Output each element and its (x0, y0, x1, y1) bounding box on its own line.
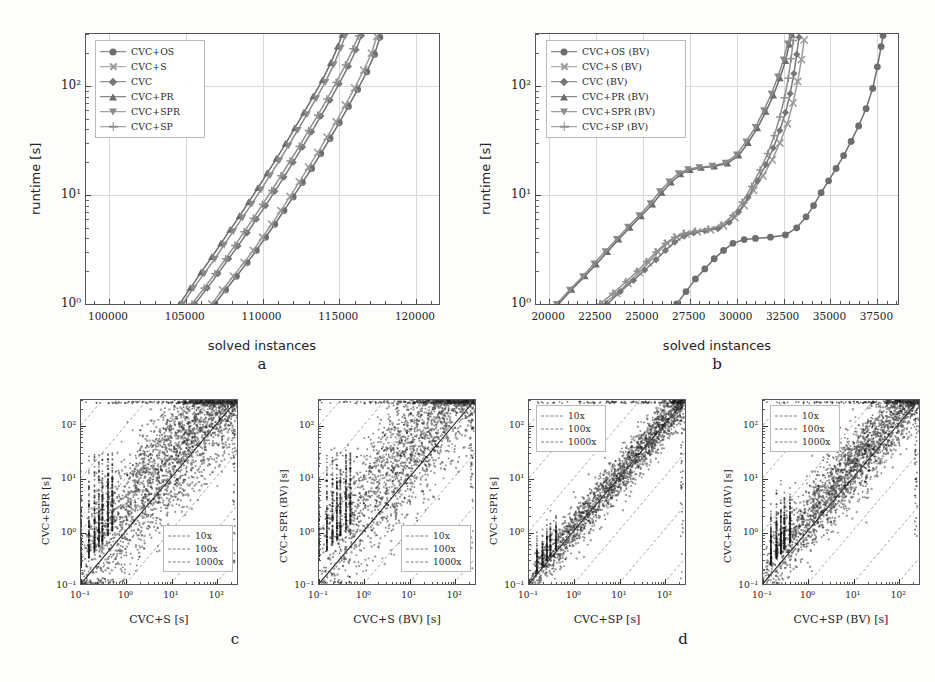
x-minor-tick (108, 582, 109, 584)
speedup-line-100x-mirror (619, 506, 685, 584)
speedup-legend-item-100x[interactable]: 100x (775, 422, 834, 435)
legend-item-cvc-os-bv-[interactable]: CVC+OS (BV) (551, 44, 680, 59)
series-marker (855, 123, 862, 130)
speedup-legend-item-100x[interactable]: 100x (541, 422, 600, 435)
legend-item-cvc-sp-bv-[interactable]: CVC+SP (BV) (551, 119, 680, 134)
legend-marker-sample (551, 76, 577, 88)
series-marker (781, 94, 789, 102)
legend-item-cvc[interactable]: CVC (100, 74, 199, 89)
x-minor-tick (727, 301, 728, 304)
y-minor-tick (529, 484, 531, 485)
y-minor-tick (763, 409, 765, 410)
x-minor-tick (718, 301, 719, 304)
series-marker (776, 127, 783, 134)
y-tick-label: 10⁻¹ (54, 580, 76, 590)
x-minor-tick (543, 582, 544, 584)
x-minor-tick (385, 301, 386, 304)
y-tick-label: 10¹ (54, 473, 76, 483)
legend-item-cvc-spr-bv-[interactable]: CVC+SPR (BV) (551, 104, 680, 119)
panel-c-left-speedup-legend: 10x100x1000x (163, 525, 233, 572)
x-minor-tick (278, 301, 279, 304)
x-tick-label: 110000 (241, 310, 281, 322)
x-minor-tick (333, 582, 334, 584)
y-tick-label: 10⁰ (292, 527, 314, 537)
speedup-legend-item-100x[interactable]: 100x (406, 542, 465, 555)
series-marker (752, 235, 759, 242)
speedup-dash-sample (406, 543, 428, 555)
x-tick-label: 35000 (813, 310, 846, 322)
panel-a-letter: a (258, 355, 267, 373)
legend-item-cvc-s[interactable]: CVC+S (100, 59, 199, 74)
panel-c-left: CVC+S [s] CVC+SPR [s] 10x100x1000x 10⁻¹1… (18, 385, 248, 675)
y-minor-tick (81, 434, 83, 435)
series-marker (790, 70, 797, 77)
y-tick-label: 10¹ (505, 187, 531, 201)
x-minor-tick (895, 582, 896, 584)
legend-item-cvc-pr[interactable]: CVC+PR (100, 89, 199, 104)
x-minor-tick (690, 301, 691, 304)
series-marker (782, 109, 789, 116)
speedup-legend-item-10x[interactable]: 10x (541, 409, 600, 422)
legend-item-cvc-sp[interactable]: CVC+SP (100, 119, 199, 134)
y-tick-label: 10¹ (736, 473, 758, 483)
x-tick-label: 10² (209, 590, 224, 600)
legend-marker-sample (100, 121, 126, 133)
legend-item-cvc-os[interactable]: CVC+OS (100, 44, 199, 59)
speedup-line-100x-mirror (853, 506, 919, 584)
legend-item-cvc-bv-[interactable]: CVC (BV) (551, 74, 680, 89)
x-tick-label: 10⁰ (566, 590, 581, 600)
x-minor-tick (587, 301, 588, 304)
legend-label: CVC+SPR (131, 106, 180, 117)
y-minor-tick (529, 437, 531, 438)
y-minor-tick (81, 463, 83, 464)
speedup-legend-item-10x[interactable]: 10x (406, 529, 465, 542)
y-minor-tick (86, 53, 89, 54)
marker-plus (109, 122, 118, 131)
legend-marker-sample (100, 91, 126, 103)
speedup-legend-item-1000x[interactable]: 1000x (168, 555, 227, 568)
y-minor-tick (81, 442, 83, 443)
figure-root: solved instances runtime [s] a CVC+OSCVC… (0, 0, 935, 682)
y-tick-mark (319, 426, 324, 427)
marker-ex (109, 62, 118, 71)
panel-b: solved instances runtime [s] b CVC+OS (B… (462, 0, 935, 375)
x-minor-tick (840, 301, 841, 304)
x-tick-mark (620, 579, 621, 584)
x-minor-tick (588, 582, 589, 584)
legend-item-cvc-spr[interactable]: CVC+SPR (100, 104, 199, 119)
speedup-legend-item-10x[interactable]: 10x (775, 409, 834, 422)
y-minor-tick (529, 487, 531, 488)
legend-item-cvc-s-bv-[interactable]: CVC+S (BV) (551, 59, 680, 74)
y-tick-mark (86, 86, 91, 87)
y-minor-tick (763, 535, 765, 536)
series-marker (878, 43, 885, 50)
y-minor-tick (536, 110, 539, 111)
y-tick-mark (81, 479, 86, 480)
x-minor-tick (881, 582, 882, 584)
y-minor-tick (763, 487, 765, 488)
x-minor-tick (113, 582, 114, 584)
x-minor-tick (437, 582, 438, 584)
x-minor-tick (445, 582, 446, 584)
x-minor-tick (293, 301, 294, 304)
legend-item-cvc-pr-bv-[interactable]: CVC+PR (BV) (551, 89, 680, 104)
speedup-legend-item-10x[interactable]: 10x (168, 529, 227, 542)
series-marker (825, 177, 832, 184)
speedup-legend-item-1000x[interactable]: 1000x (541, 435, 600, 448)
x-minor-tick (232, 301, 233, 304)
speedup-legend-item-1000x[interactable]: 1000x (775, 435, 834, 448)
x-minor-tick (392, 582, 393, 584)
y-minor-tick (763, 544, 765, 545)
legend-marker-sample (551, 91, 577, 103)
x-minor-tick (765, 301, 766, 304)
x-minor-tick (556, 582, 557, 584)
y-minor-tick (319, 507, 321, 508)
speedup-legend-item-100x[interactable]: 100x (168, 542, 227, 555)
x-tick-label: 10⁰ (356, 590, 371, 600)
y-tick-mark (763, 533, 768, 534)
x-minor-tick (416, 301, 417, 304)
y-minor-tick (763, 495, 765, 496)
x-minor-tick (658, 582, 659, 584)
x-minor-tick (116, 582, 117, 584)
speedup-legend-item-1000x[interactable]: 1000x (406, 555, 465, 568)
